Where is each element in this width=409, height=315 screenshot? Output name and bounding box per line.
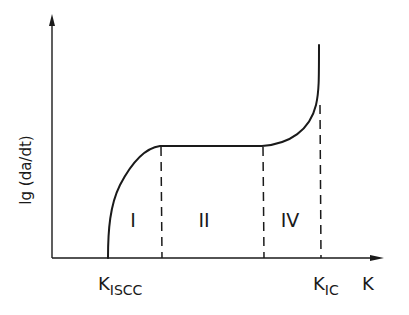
marker-k-ic: KIC: [313, 273, 339, 298]
y-axis-label: lg (da/dt): [17, 135, 35, 204]
svg-text:KISCC: KISCC: [98, 273, 143, 298]
boundary-I-II: [161, 147, 162, 258]
crack-growth-rate-diagram: lg (da/dt) I II IV KISCC KIC K: [0, 0, 409, 315]
x-axis: [52, 255, 384, 261]
region-label-IV: IV: [281, 209, 300, 231]
svg-text:KIC: KIC: [313, 273, 339, 298]
region-label-II: II: [198, 209, 209, 231]
x-axis-label: K: [362, 273, 375, 294]
x-axis-arrow-icon: [370, 255, 384, 261]
y-axis-arrow-icon: [49, 14, 55, 26]
marker-k-iscc-sub: ISCC: [110, 282, 143, 298]
boundary-II-IV: [263, 147, 264, 258]
marker-k-iscc: KISCC: [98, 273, 143, 298]
y-axis: [49, 14, 55, 258]
boundary-KIC: [320, 105, 321, 258]
marker-k-ic-sub: IC: [325, 282, 339, 298]
region-label-I: I: [130, 209, 136, 231]
